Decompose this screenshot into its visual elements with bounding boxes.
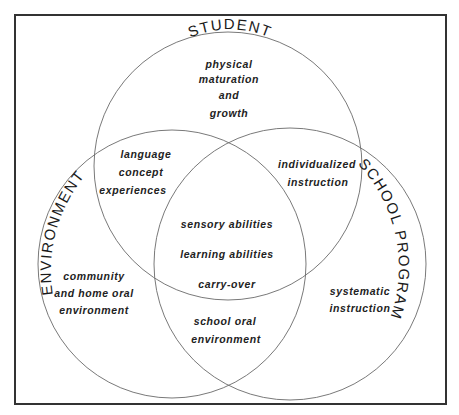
region-line: environment [59,304,129,316]
region-line: environment [191,333,261,345]
region-line: carry-over [198,278,256,290]
student-set-title: STUDENT [185,15,274,40]
region-line: community [63,270,125,282]
venn-diagram: STUDENT ENVIRONMENT SCHOOL PROGRAM physi… [0,0,459,415]
region-line: school oral [194,315,257,327]
region-school-only: systematic instruction [330,285,391,314]
region-line: growth [209,107,249,119]
region-line: learning abilities [180,248,274,260]
school-program-set-title: SCHOOL PROGRAM [356,155,413,323]
region-student-only: physical maturation and growth [199,58,259,119]
region-line: maturation [199,73,259,85]
region-line: instruction [288,176,349,188]
region-line: concept [119,166,163,178]
region-line: and home oral [54,287,134,299]
region-line: systematic [330,285,390,297]
region-student-environment: language concept experiences [99,148,171,196]
region-environment-only: community and home oral environment [54,270,134,316]
region-student-school: individualized instruction [278,158,356,188]
region-line: experiences [99,184,166,196]
region-line: individualized [278,158,356,170]
region-environment-school: school oral environment [191,315,261,345]
region-line: physical [205,58,253,70]
region-line: sensory abilities [181,218,274,230]
region-line: and [219,89,239,101]
region-line: language [121,148,172,160]
region-line: instruction [330,302,391,314]
region-all-three: sensory abilities learning abilities car… [180,218,274,290]
